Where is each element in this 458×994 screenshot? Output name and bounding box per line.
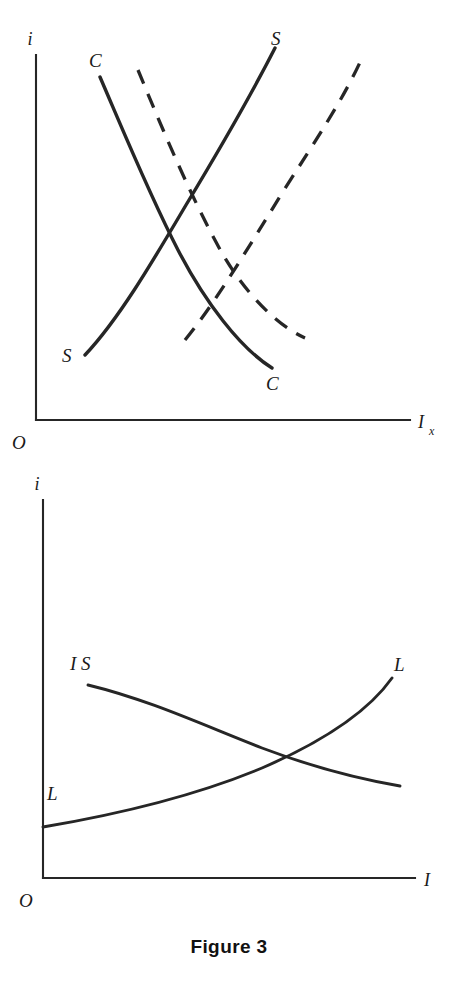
bottom-curve-lm	[43, 678, 392, 827]
top-y-axis-label: i	[27, 29, 32, 49]
bottom-y-axis-label: i	[34, 474, 39, 494]
bottom-label-is: I S	[69, 653, 91, 674]
top-x-axis-sublabel: x	[428, 424, 435, 438]
bottom-label-l-left: L	[46, 783, 58, 804]
top-curve-c-solid	[100, 77, 272, 368]
top-label-c-upper: C	[89, 50, 102, 71]
bottom-x-axis-label: I	[423, 870, 431, 890]
top-curve-s-solid	[85, 48, 275, 355]
top-label-s-lower: S	[62, 345, 72, 366]
bottom-label-l-right: L	[393, 654, 405, 675]
top-label-s-upper: S	[271, 28, 281, 49]
top-label-c-lower: C	[266, 373, 279, 394]
bottom-origin-label: O	[19, 890, 33, 911]
top-x-axis-label: I	[417, 412, 425, 432]
chart-top-panel: i I x O C C S S	[0, 0, 458, 460]
top-curve-s-shifted-dashed	[185, 58, 362, 340]
top-curve-c-shifted-dashed	[138, 70, 305, 338]
figure-3: i I x O C C S S i I O I S L L	[0, 0, 458, 994]
top-origin-label: O	[12, 432, 26, 453]
figure-caption: Figure 3	[0, 936, 458, 958]
bottom-curve-is	[88, 685, 400, 786]
chart-bottom-panel: i I O I S L L	[0, 460, 458, 930]
